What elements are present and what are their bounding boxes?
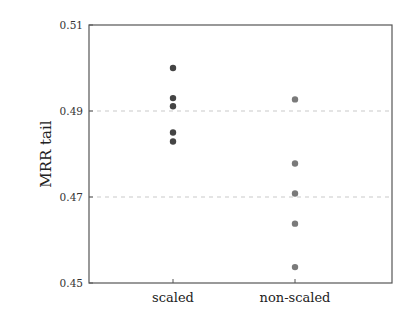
data-point bbox=[292, 264, 298, 270]
data-point bbox=[170, 103, 176, 109]
data-point bbox=[292, 220, 298, 226]
y-axis-ticks: 0.450.470.490.51 bbox=[60, 19, 93, 289]
x-category-label: scaled bbox=[152, 290, 194, 305]
data-point bbox=[170, 129, 176, 135]
strip-chart: 0.450.470.490.51 scalednon-scaled MRR ta… bbox=[0, 0, 417, 326]
y-axis-title: MRR tail bbox=[37, 120, 55, 187]
y-tick-label: 0.45 bbox=[60, 277, 83, 289]
grid-lines bbox=[89, 111, 392, 197]
data-point bbox=[170, 138, 176, 144]
data-points bbox=[170, 65, 298, 270]
data-point bbox=[292, 96, 298, 102]
data-point bbox=[170, 95, 176, 101]
x-category-label: non-scaled bbox=[260, 290, 331, 305]
data-point bbox=[292, 160, 298, 166]
y-tick-label: 0.51 bbox=[60, 19, 83, 31]
data-point bbox=[170, 65, 176, 71]
y-tick-label: 0.47 bbox=[60, 191, 83, 203]
y-tick-label: 0.49 bbox=[60, 105, 83, 117]
data-point bbox=[292, 190, 298, 196]
plot-frame bbox=[89, 25, 392, 283]
